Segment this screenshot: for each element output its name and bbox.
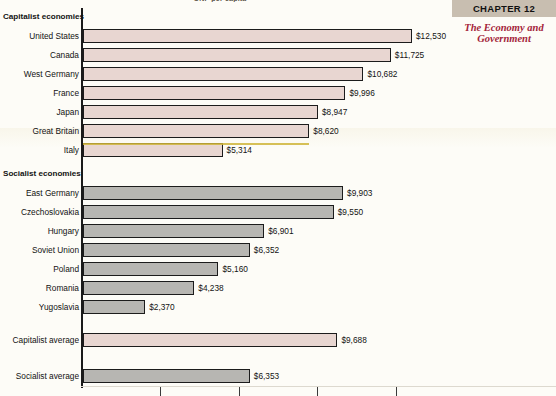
- bar-value-label: $6,352: [254, 243, 279, 257]
- section-label: Socialist economies: [3, 167, 79, 181]
- axis-tick: [160, 387, 161, 396]
- bar-category-label: Romania: [3, 281, 79, 295]
- axis-tick: [239, 387, 240, 396]
- axis-tick: [396, 387, 397, 396]
- bar: [83, 48, 391, 62]
- bar-category-label: Hungary: [3, 224, 79, 238]
- bar-category-label: Soviet Union: [3, 243, 79, 257]
- bar-category-label: France: [3, 86, 79, 100]
- section-label: Capitalist economies: [3, 10, 79, 24]
- axis-baseline: [81, 386, 556, 387]
- bar-value-label: $8,620: [313, 124, 338, 138]
- bar: [83, 333, 337, 347]
- bar-row: Romania$4,238: [0, 281, 556, 295]
- bar: [83, 369, 250, 383]
- bar: [83, 224, 264, 238]
- bar-value-label: $4,238: [198, 281, 223, 295]
- bar: [83, 281, 194, 295]
- bar-value-label: $9,903: [347, 186, 372, 200]
- bar-category-label: United States: [3, 29, 79, 43]
- bar: [83, 243, 250, 257]
- bar-row: Poland$5,160: [0, 262, 556, 276]
- bar: [83, 124, 309, 138]
- chart-figure: GNP per capita CHAPTER 12 The Economy an…: [0, 0, 556, 396]
- bar: [83, 29, 412, 43]
- bar-value-label: $12,530: [416, 29, 446, 43]
- highlighter-mark: [83, 143, 309, 145]
- bar: [83, 67, 363, 81]
- bar-category-label: Capitalist average: [3, 333, 79, 347]
- bar-category-label: East Germany: [3, 186, 79, 200]
- bar-value-label: $10,682: [367, 67, 397, 81]
- bar-row: Socialist average$6,353: [0, 369, 556, 383]
- bar-value-label: $9,688: [341, 333, 366, 347]
- bar: [83, 105, 318, 119]
- bar-value-label: $11,725: [395, 48, 424, 62]
- bar-value-label: $9,550: [338, 205, 363, 219]
- bar-category-label: West Germany: [3, 67, 79, 81]
- section-header-row: Socialist economies: [0, 167, 556, 181]
- bar-value-label: $9,996: [349, 86, 374, 100]
- bar-category-label: Socialist average: [3, 369, 79, 383]
- bar-row: France$9,996: [0, 86, 556, 100]
- bar-category-label: Czechoslovakia: [3, 205, 79, 219]
- bar: [83, 86, 345, 100]
- bar-row: Yugoslavia$2,370: [0, 300, 556, 314]
- bar: [83, 186, 343, 200]
- bar: [83, 300, 145, 314]
- bar-row: Canada$11,725: [0, 48, 556, 62]
- bar-value-label: $5,160: [222, 262, 247, 276]
- bar-row: West Germany$10,682: [0, 67, 556, 81]
- bar-row: Soviet Union$6,352: [0, 243, 556, 257]
- bar-row: Czechoslovakia$9,550: [0, 205, 556, 219]
- bar-category-label: Canada: [3, 48, 79, 62]
- bar-category-label: Japan: [3, 105, 79, 119]
- section-header-row: Capitalist economies: [0, 10, 556, 24]
- bar-category-label: Italy: [3, 143, 79, 157]
- bar-row: Capitalist average$9,688: [0, 333, 556, 347]
- bar: [83, 205, 334, 219]
- bar-row: United States$12,530: [0, 29, 556, 43]
- bar-value-label: $6,353: [254, 369, 279, 383]
- bar-row: East Germany$9,903: [0, 186, 556, 200]
- chart-top-caption: GNP per capita: [0, 0, 440, 2]
- bar-value-label: $8,947: [322, 105, 347, 119]
- bar-category-label: Poland: [3, 262, 79, 276]
- bar-category-label: Yugoslavia: [3, 300, 79, 314]
- bar-category-label: Great Britain: [3, 124, 79, 138]
- bar-row: Japan$8,947: [0, 105, 556, 119]
- bar-value-label: $6,901: [268, 224, 293, 238]
- bar: [83, 262, 218, 276]
- axis-tick: [317, 387, 318, 396]
- bar-row: Hungary$6,901: [0, 224, 556, 238]
- bar-value-label: $2,370: [149, 300, 174, 314]
- bar-row: Great Britain$8,620: [0, 124, 556, 138]
